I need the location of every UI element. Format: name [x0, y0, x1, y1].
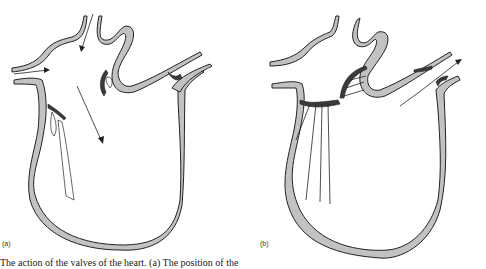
semilunar-valve-open-b [414, 66, 432, 72]
av-valve-leaflet-b [300, 100, 340, 107]
semilunar-cusp-a [106, 77, 112, 88]
flow-arrow-head-a3 [98, 136, 104, 144]
panel-b-heart [270, 16, 462, 258]
flow-arrow-head-b [455, 59, 462, 65]
flow-arrow-head-a2 [79, 45, 85, 52]
chordae-line-b7 [328, 104, 330, 204]
chordae-line-b6 [320, 104, 322, 202]
vein-upper-wall-b [270, 16, 339, 66]
chordae-a [58, 120, 74, 200]
panel-a-heart [12, 14, 212, 250]
panel-label-a: (a) [2, 240, 11, 247]
chordae-line-b1 [344, 90, 364, 96]
flow-arrow-line-a3 [77, 86, 101, 140]
chordae-line-b5 [306, 104, 316, 200]
septum-b [353, 18, 452, 97]
flow-arrow-head-a1 [44, 67, 50, 73]
vein-upper-wall-a [12, 16, 87, 72]
av-valve-dark-a [48, 104, 66, 120]
vein-lower-wall-a [14, 70, 204, 250]
figure-caption: The action of the valves of the heart. (… [0, 257, 238, 269]
panel-label-b: (b) [260, 240, 269, 247]
av-valve-cusp-a [51, 112, 56, 136]
